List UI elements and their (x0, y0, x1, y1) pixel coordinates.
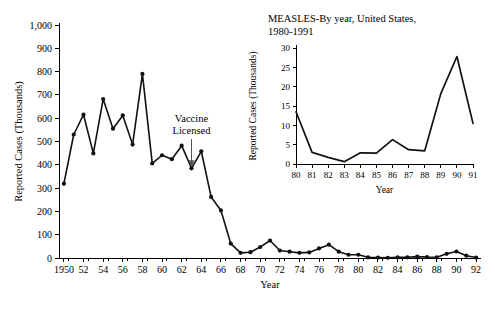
main-data-point (454, 249, 458, 253)
main-data-point (474, 255, 478, 259)
vaccine-annotation-line-1: Vaccine (175, 113, 209, 124)
inset-y-ticklabel: 15 (281, 101, 291, 111)
main-x-ticklabel: 62 (177, 264, 187, 275)
inset-title-line-1: MEASLES-By year, United States, (268, 13, 416, 24)
main-y-ticklabel: 100 (37, 229, 52, 240)
main-data-point (386, 256, 390, 260)
main-data-point (229, 241, 233, 245)
inset-y-ticklabel: 10 (281, 121, 291, 131)
main-data-point (288, 250, 292, 254)
main-data-point (131, 142, 135, 146)
inset-x-ticklabel: 84 (356, 170, 366, 180)
measles-figure: 01002003004005006007008009001,0001950525… (0, 0, 495, 315)
inset-y-ticklabel: 5 (286, 140, 291, 150)
main-data-point (346, 253, 350, 257)
main-x-ticklabel: 76 (314, 264, 324, 275)
main-y-ticklabel: 900 (37, 43, 52, 54)
inset-x-ticklabel: 88 (420, 170, 430, 180)
main-data-point (170, 157, 174, 161)
main-y-ticklabel: 800 (37, 66, 52, 77)
main-data-point (111, 127, 115, 131)
inset-y-ticklabel: 0 (286, 159, 291, 169)
inset-title-line-2: 1980-1991 (268, 26, 314, 37)
main-x-ticklabel: 68 (236, 264, 246, 275)
vaccine-annotation-line-2: Licensed (173, 125, 212, 136)
inset-x-ticklabel: 86 (388, 170, 398, 180)
main-data-point (268, 238, 272, 242)
inset-x-axis-title: Year (376, 185, 394, 195)
main-y-ticklabel: 1,000 (30, 20, 53, 31)
main-y-ticklabel: 700 (37, 89, 52, 100)
main-x-ticklabel: 80 (353, 264, 363, 275)
inset-x-ticklabel: 83 (340, 170, 350, 180)
main-data-point (405, 255, 409, 259)
main-data-point (62, 182, 66, 186)
main-y-ticklabel: 0 (47, 253, 52, 264)
main-data-point (219, 208, 223, 212)
main-x-ticklabel: 70 (255, 264, 265, 275)
main-x-ticklabel: 58 (137, 264, 147, 275)
inset-y-ticklabel: 30 (281, 43, 291, 53)
inset-x-ticklabel: 89 (436, 170, 446, 180)
inset-x-ticklabel: 90 (452, 170, 462, 180)
main-data-point (337, 250, 341, 254)
main-x-ticklabel: 64 (196, 264, 206, 275)
main-y-ticklabel: 600 (37, 113, 52, 124)
main-data-point (278, 248, 282, 252)
main-y-ticklabel: 400 (37, 159, 52, 170)
main-x-ticklabel: 72 (275, 264, 285, 275)
main-data-point (327, 243, 331, 247)
main-data-point (101, 97, 105, 101)
main-data-point (366, 255, 370, 259)
main-data-point (91, 151, 95, 155)
main-x-ticklabel: 66 (216, 264, 226, 275)
main-data-point (435, 255, 439, 259)
main-x-ticklabel: 60 (157, 264, 167, 275)
main-data-point (180, 144, 184, 148)
inset-x-ticklabel: 82 (324, 170, 333, 180)
main-data-point (297, 251, 301, 255)
main-x-ticklabel: 92 (471, 264, 481, 275)
main-data-point (81, 113, 85, 117)
chart-canvas: 01002003004005006007008009001,0001950525… (0, 0, 495, 315)
main-x-ticklabel: 90 (451, 264, 461, 275)
main-data-point (395, 255, 399, 259)
main-data-point (209, 195, 213, 199)
main-data-point (376, 255, 380, 259)
main-y-axis-title: Reported Cases (Thousands) (13, 81, 25, 202)
main-x-ticklabel: 52 (79, 264, 89, 275)
main-y-ticklabel: 500 (37, 136, 52, 147)
main-x-axis-title: Year (260, 279, 280, 290)
inset-x-ticklabel: 80 (292, 170, 302, 180)
main-data-point (317, 246, 321, 250)
inset-x-ticklabel: 85 (372, 170, 382, 180)
main-x-ticklabel: 1950 (54, 264, 74, 275)
main-y-ticklabel: 200 (37, 206, 52, 217)
main-x-ticklabel: 56 (118, 264, 128, 275)
main-x-ticklabel: 82 (373, 264, 383, 275)
inset-y-ticklabel: 25 (281, 63, 291, 73)
main-y-ticklabel: 300 (37, 183, 52, 194)
main-data-point (307, 250, 311, 254)
main-data-point (140, 72, 144, 76)
main-x-ticklabel: 78 (334, 264, 344, 275)
main-data-point (415, 255, 419, 259)
main-data-point (258, 245, 262, 249)
main-x-ticklabel: 54 (98, 264, 108, 275)
main-data-point (238, 251, 242, 255)
inset-y-ticklabel: 20 (281, 82, 291, 92)
inset-y-axis-title: Reported Cases (Thousands) (248, 51, 259, 160)
inset-x-ticklabel: 81 (308, 170, 317, 180)
main-x-ticklabel: 86 (412, 264, 422, 275)
main-data-point (72, 132, 76, 136)
main-data-point (464, 254, 468, 258)
main-x-ticklabel: 84 (393, 264, 403, 275)
main-data-point (248, 250, 252, 254)
main-data-point (425, 255, 429, 259)
main-x-ticklabel: 88 (432, 264, 442, 275)
main-data-point (445, 252, 449, 256)
main-data-point (199, 149, 203, 153)
inset-line-chart: MEASLES-By year, United States,1980-1991… (248, 13, 478, 195)
inset-x-ticklabel: 91 (469, 170, 478, 180)
main-data-point (160, 153, 164, 157)
